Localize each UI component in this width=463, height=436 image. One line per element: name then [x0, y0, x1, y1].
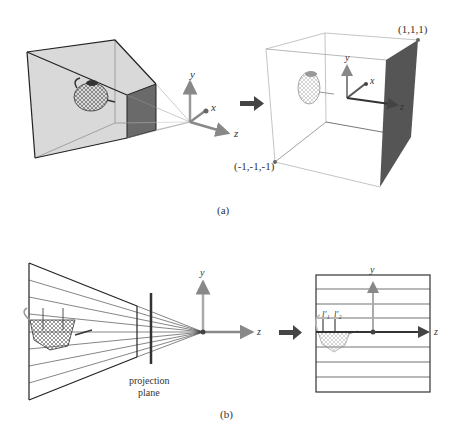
transform-arrow-icon: [279, 325, 302, 340]
transform-arrow-icon: [240, 96, 264, 111]
axis-label-z: z: [233, 127, 239, 139]
corner-min-label: (-1,-1,-1): [234, 160, 275, 173]
orthographic-result: l′₁ l′₂ y z: [316, 264, 438, 392]
teapot-distorted-icon: [298, 71, 334, 104]
caption-a: (a): [217, 204, 230, 217]
axis-label-y: y: [344, 52, 350, 63]
axis-label-x: x: [369, 75, 375, 86]
canonical-view-volume: (1,1,1) (-1,-1,-1): [234, 23, 428, 187]
axis-label-y: y: [189, 68, 195, 80]
corner-max-label: (1,1,1): [398, 23, 428, 36]
axis-label-y: y: [369, 264, 375, 275]
line-label-l1: l′₁: [322, 309, 330, 319]
projection-plane-label-1: projection: [129, 375, 170, 386]
axis-label-x: x: [210, 101, 216, 113]
caption-b: (b): [220, 408, 233, 421]
projection-plane-label-2: plane: [138, 387, 160, 398]
line-label-l2: l′₂: [334, 309, 342, 319]
figure-canvas: y x z (1,1,1) (-1,-1,-1) y x: [0, 0, 463, 436]
axis-label-y: y: [199, 267, 205, 278]
near-face: [380, 40, 418, 187]
axes-a-left: y x z: [189, 68, 239, 139]
axes-b-left: y z: [199, 267, 261, 337]
axis-label-z: z: [399, 101, 404, 112]
teapot-projected-icon: [316, 315, 358, 352]
view-frustum: [27, 40, 190, 158]
axis-label-z: z: [256, 326, 261, 337]
axis-label-z: z: [433, 326, 438, 337]
